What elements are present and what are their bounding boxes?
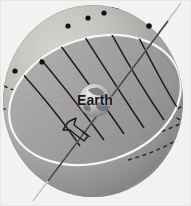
star-dot-2 [39,59,44,64]
star-dot-5 [101,10,106,15]
star-dot-1 [12,68,17,73]
star-dot-6 [146,23,152,29]
celestial-sphere-figure: Earth [0,0,191,206]
star-dot-3 [65,23,70,28]
star-dot-4 [85,15,90,20]
earth-label: Earth [77,92,113,108]
celestial-sphere-svg: Earth [0,0,191,206]
